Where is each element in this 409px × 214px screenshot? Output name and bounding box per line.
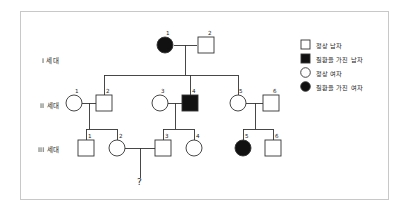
generation-label-3: III 세대	[38, 144, 59, 154]
id-label-II-4: 4	[192, 88, 196, 94]
individual-III-4	[186, 140, 202, 156]
pedigree-canvas	[0, 0, 409, 214]
unknown-offspring-marker: ?	[137, 177, 142, 187]
id-label-II-1: 1	[75, 88, 79, 94]
id-label-III-3: 3	[165, 133, 169, 139]
individual-I-1	[157, 37, 173, 53]
id-label-III-4: 4	[196, 133, 200, 139]
individual-III-1	[78, 140, 94, 156]
legend-affected-male-icon	[301, 54, 310, 63]
connector-lines	[82, 45, 273, 178]
pedigree-figure: I 세대 II 세대 III 세대 1 2 1 2 3 4 5 6 1 2 3 …	[0, 0, 409, 214]
individual-III-3	[155, 140, 171, 156]
generation-label-1: I 세대	[42, 55, 59, 65]
id-label-II-5: 5	[239, 88, 243, 94]
generation-label-2: II 세대	[40, 100, 59, 110]
id-label-I-1: 1	[166, 30, 170, 36]
id-label-III-1: 1	[88, 133, 92, 139]
legend-normal-male-icon	[301, 40, 310, 49]
individual-III-6	[265, 140, 281, 156]
individual-II-1	[66, 95, 82, 111]
individual-I-2	[198, 37, 214, 53]
id-label-III-5: 5	[245, 133, 249, 139]
individual-III-5	[235, 140, 251, 156]
legend-affected-female-icon	[301, 82, 311, 92]
id-label-I-2: 2	[208, 30, 212, 36]
individual-II-5	[230, 95, 246, 111]
id-label-II-6: 6	[273, 88, 277, 94]
legend-label-affected-male: 질환을 가진 남자	[316, 55, 363, 64]
legend-label-normal-female: 정상 여자	[316, 69, 342, 78]
legend-label-affected-female: 질환을 가진 여자	[316, 83, 363, 92]
id-label-III-2: 2	[119, 133, 123, 139]
individual-II-6	[263, 95, 279, 111]
individual-II-4	[182, 95, 198, 111]
id-label-II-2: 2	[106, 88, 110, 94]
legend-symbols	[301, 40, 311, 91]
id-label-II-3: 3	[161, 88, 165, 94]
individual-III-2	[109, 140, 125, 156]
legend-label-normal-male: 정상 남자	[316, 41, 342, 50]
individual-II-2	[96, 95, 112, 111]
individual-II-3	[152, 95, 168, 111]
legend-normal-female-icon	[301, 68, 311, 78]
id-label-III-6: 6	[275, 133, 279, 139]
